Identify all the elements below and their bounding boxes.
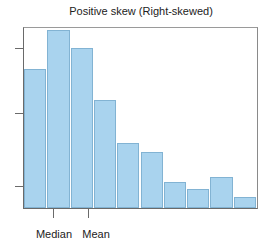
histogram-bar bbox=[47, 30, 69, 208]
histogram-bar bbox=[164, 182, 186, 208]
mean-tick bbox=[88, 209, 89, 218]
histogram-bar bbox=[234, 197, 256, 208]
y-axis-tick bbox=[15, 186, 23, 187]
histogram-bar bbox=[141, 152, 163, 208]
histogram-bar bbox=[71, 48, 93, 208]
histogram-bar bbox=[24, 69, 46, 208]
y-axis-tick bbox=[15, 48, 23, 49]
histogram-bar bbox=[117, 143, 139, 208]
mean-label: Mean bbox=[82, 228, 110, 240]
median-label: Median bbox=[36, 228, 72, 240]
histogram-bar bbox=[210, 177, 232, 208]
chart-title: Positive skew (Right-skewed) bbox=[0, 5, 272, 17]
histogram-bar bbox=[187, 189, 209, 208]
histogram-bar bbox=[94, 100, 116, 208]
median-tick bbox=[53, 209, 54, 218]
histogram-bars bbox=[24, 28, 257, 208]
y-axis-tick bbox=[15, 113, 23, 114]
